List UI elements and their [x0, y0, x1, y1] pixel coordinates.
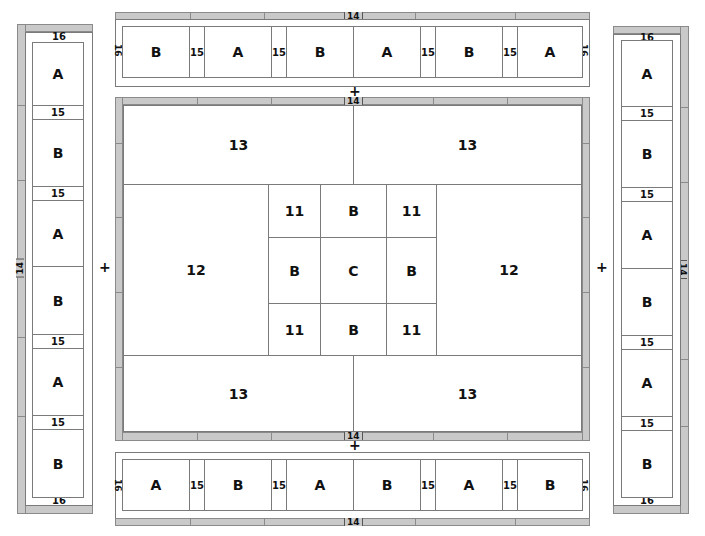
panel-b: B: [32, 429, 84, 498]
main-panel: 14 14 13 13 12 12 11 B 11 B C B 11 B 11 …: [115, 97, 590, 441]
panel-b: B: [122, 26, 190, 78]
panel-11: 11: [386, 184, 437, 238]
spacer-15: 15: [621, 187, 673, 202]
panel-a: A: [435, 459, 503, 511]
panel-11: 11: [386, 303, 437, 356]
spacer-15: 15: [271, 459, 287, 511]
spacer-15: 15: [621, 416, 673, 431]
panel-a: A: [32, 42, 84, 106]
panel-13-top-left: 13: [123, 105, 354, 185]
panel-a: A: [353, 26, 421, 78]
top-row-cells: B 15 A 15 B A 15 B 15 A: [122, 26, 583, 78]
panel-a: A: [517, 26, 583, 78]
panel-b: B: [32, 119, 84, 187]
center-grid: 11 B 11 B C B 11 B 11: [268, 184, 437, 356]
left-column-side-label: 14: [16, 259, 24, 278]
left-column-top-label: 16: [25, 31, 93, 42]
spacer-15: 15: [32, 186, 84, 201]
panel-a: A: [621, 349, 673, 417]
panel-b: B: [268, 237, 321, 304]
main-right-rail: [582, 97, 590, 441]
spacer-15: 15: [32, 334, 84, 349]
spacer-15: 15: [32, 105, 84, 120]
spacer-15: 15: [502, 459, 518, 511]
panel-b: B: [353, 459, 421, 511]
panel-b: B: [320, 184, 387, 238]
panel-b: B: [517, 459, 583, 511]
spacer-15: 15: [189, 459, 205, 511]
panel-b: B: [32, 266, 84, 335]
panel-12-left: 12: [123, 184, 269, 356]
right-column-bottom-rail: [613, 505, 689, 514]
spacer-15: 15: [32, 415, 84, 430]
left-joiner-plus: +: [99, 259, 111, 275]
panel-b: B: [621, 268, 673, 336]
panel-a: A: [204, 26, 272, 78]
bottom-row-rail-label: 14: [344, 518, 363, 526]
panel-a: A: [621, 40, 673, 107]
bottom-row-panel: 14 16 16 A 15 B 15 A B 15 A 15 B: [115, 452, 590, 526]
panel-b: B: [621, 430, 673, 498]
bottom-row-cells: A 15 B 15 A B 15 A 15 B: [122, 459, 583, 511]
panel-b: B: [621, 120, 673, 188]
panel-11: 11: [268, 303, 321, 356]
left-column-bottom-rail: [17, 505, 93, 514]
right-column-cells: A 15 B 15 A B 15 A 15 B: [621, 40, 673, 498]
main-interior: 13 13 12 12 11 B 11 B C B 11 B 11 13 13: [123, 105, 582, 432]
panel-a: A: [32, 348, 84, 416]
panel-b: B: [386, 237, 437, 304]
main-top-rail-label: 14: [344, 97, 363, 105]
left-column-panel: 14 16 16 A 15 B 15 A B 15 A 15 B: [17, 24, 93, 514]
panel-a: A: [32, 200, 84, 267]
left-column-cells: A 15 B 15 A B 15 A 15 B: [32, 42, 84, 498]
panel-11: 11: [268, 184, 321, 238]
panel-b: B: [286, 26, 354, 78]
top-row-panel: 14 16 16 B 15 A 15 B A 15 B 15 A: [115, 12, 590, 87]
panel-c: C: [320, 237, 387, 304]
spacer-15: 15: [621, 106, 673, 121]
panel-13-bottom-right: 13: [353, 355, 582, 432]
right-joiner-plus: +: [596, 259, 608, 275]
spacer-15: 15: [189, 26, 205, 78]
panel-b: B: [204, 459, 272, 511]
main-left-rail: [115, 97, 123, 441]
panel-12-right: 12: [436, 184, 582, 356]
spacer-15: 15: [621, 335, 673, 350]
spacer-15: 15: [502, 26, 518, 78]
panel-13-bottom-left: 13: [123, 355, 354, 432]
panel-13-top-right: 13: [353, 105, 582, 185]
right-column-panel: 14 16 16 A 15 B 15 A B 15 A 15 B: [613, 26, 689, 514]
spacer-15: 15: [420, 459, 436, 511]
spacer-15: 15: [271, 26, 287, 78]
panel-a: A: [621, 201, 673, 269]
bottom-joiner-plus: +: [349, 437, 361, 453]
panel-b: B: [435, 26, 503, 78]
panel-b: B: [320, 303, 387, 356]
panel-a: A: [286, 459, 354, 511]
spacer-15: 15: [420, 26, 436, 78]
panel-a: A: [122, 459, 190, 511]
